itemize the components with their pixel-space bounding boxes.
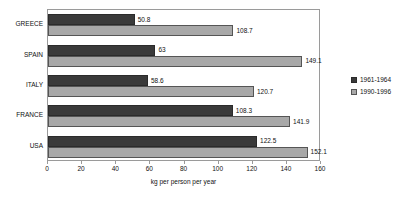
x-tick-label: 80 (180, 165, 187, 173)
x-tick-mark (286, 161, 287, 164)
bar-greece-1990-1996 (48, 25, 233, 36)
bar-usa-1961-1964 (48, 136, 257, 147)
bar-italy-1961-1964 (48, 75, 148, 86)
category-label-usa: USA (30, 142, 43, 150)
x-axis: 020406080100120140160 (47, 161, 320, 175)
bar-greece-1961-1964 (48, 14, 135, 25)
bar-chart: GREECESPAINITALYFRANCEUSA 50.8108.763149… (0, 0, 407, 199)
x-tick-label: 60 (146, 165, 153, 173)
bar-value-label: 141.9 (293, 118, 309, 126)
x-tick-label: 100 (212, 165, 223, 173)
bar-value-label: 152.1 (311, 148, 327, 156)
bar-italy-1990-1996 (48, 86, 254, 97)
plot-area: 50.8108.763149.158.6120.7108.3141.9122.5… (47, 9, 320, 161)
bar-usa-1990-1996 (48, 147, 308, 158)
bar-value-label: 120.7 (257, 88, 273, 96)
x-tick-label: 20 (78, 165, 85, 173)
category-label-italy: ITALY (26, 81, 43, 89)
legend-item-1961-1964: 1961-1964 (351, 75, 405, 85)
legend-label: 1961-1964 (360, 76, 391, 84)
x-axis-title: kg per person per year (47, 177, 320, 186)
x-tick-mark (47, 161, 48, 164)
category-label-greece: GREECE (16, 20, 43, 28)
category-label-spain: SPAIN (24, 51, 43, 59)
x-tick-label: 40 (112, 165, 119, 173)
bar-value-label: 108.3 (236, 107, 252, 115)
legend-label: 1990-1996 (360, 88, 391, 96)
bar-value-label: 149.1 (305, 57, 321, 65)
bar-spain-1961-1964 (48, 45, 155, 56)
x-tick-mark (218, 161, 219, 164)
bar-france-1990-1996 (48, 116, 290, 127)
bar-france-1961-1964 (48, 105, 233, 116)
x-tick-mark (320, 161, 321, 164)
legend-swatch-icon (351, 89, 357, 95)
x-tick-mark (81, 161, 82, 164)
chart-legend: 1961-19641990-1996 (351, 75, 405, 99)
bar-value-label: 50.8 (138, 16, 151, 24)
x-tick-mark (149, 161, 150, 164)
category-axis-labels: GREECESPAINITALYFRANCEUSA (0, 9, 43, 161)
legend-swatch-icon (351, 77, 357, 83)
x-tick-label: 120 (246, 165, 257, 173)
x-tick-mark (252, 161, 253, 164)
x-tick-label: 140 (280, 165, 291, 173)
x-tick-label: 160 (315, 165, 326, 173)
x-tick-label: 0 (45, 165, 49, 173)
x-tick-mark (184, 161, 185, 164)
bar-value-label: 63 (158, 46, 165, 54)
bar-spain-1990-1996 (48, 56, 302, 67)
legend-item-1990-1996: 1990-1996 (351, 87, 405, 97)
bar-value-label: 108.7 (236, 27, 252, 35)
bar-value-label: 122.5 (260, 137, 276, 145)
bar-value-label: 58.6 (151, 77, 164, 85)
category-label-france: FRANCE (16, 111, 43, 119)
x-tick-mark (115, 161, 116, 164)
